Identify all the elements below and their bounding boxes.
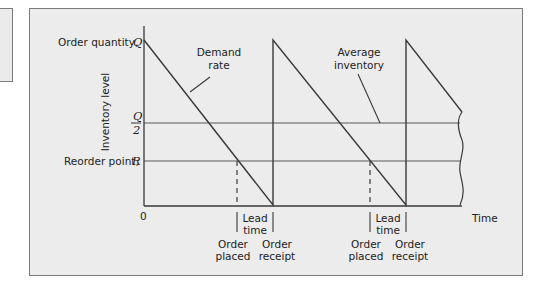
order-placed-label-2b: placed: [349, 250, 384, 262]
average-inventory-leader: [358, 74, 380, 123]
lead-time-label-2a: Lead: [375, 212, 400, 224]
reorder-point-symbol: R: [131, 154, 141, 168]
half-q-denominator: 2: [132, 123, 140, 137]
order-receipt-label-2a: Order: [395, 238, 426, 250]
average-inventory-label-2: inventory: [334, 59, 384, 71]
demand-rate-label-1: Demand: [197, 46, 242, 58]
origin-label: 0: [140, 210, 147, 222]
x-axis-title: Time: [471, 212, 498, 224]
order-placed-label-1a: Order: [218, 238, 249, 250]
axis-break-squiggle: [458, 112, 463, 205]
order-placed-label-1b: placed: [216, 250, 251, 262]
order-receipt-label-1a: Order: [262, 238, 293, 250]
demand-rate-label-2: rate: [208, 59, 229, 71]
reorder-point-label: Reorder point,: [64, 155, 139, 167]
lead-time-label-2b: time: [376, 224, 400, 236]
order-quantity-label: Order quantity,: [58, 36, 138, 48]
lead-time-label-1b: time: [243, 224, 267, 236]
y-axis-title: Inventory level: [99, 73, 111, 151]
average-inventory-label-1: Average: [337, 46, 380, 58]
order-placed-label-2a: Order: [351, 238, 382, 250]
order-receipt-label-2b: receipt: [392, 250, 428, 262]
order-receipt-label-1b: receipt: [259, 250, 295, 262]
demand-rate-leader: [190, 77, 210, 92]
lead-time-label-1a: Lead: [242, 212, 267, 224]
order-quantity-symbol: Q: [133, 35, 143, 49]
inventory-diagram: Inventory level Order quantity, Q Q 2 Re…: [0, 0, 545, 296]
half-q-numerator: Q: [133, 109, 143, 123]
